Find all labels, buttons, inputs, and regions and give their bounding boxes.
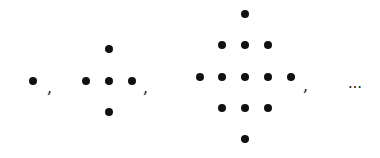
dot xyxy=(241,73,249,81)
dot xyxy=(105,45,113,53)
dot xyxy=(241,135,249,143)
dot xyxy=(218,104,226,112)
comma-separator: , xyxy=(47,80,52,96)
dot xyxy=(105,108,113,116)
comma-separator: , xyxy=(303,78,308,94)
dot xyxy=(128,77,136,85)
comma-separator: , xyxy=(143,80,148,96)
dot xyxy=(287,73,295,81)
dot-pattern-sequence: ,,,… xyxy=(0,0,380,158)
dot xyxy=(196,73,204,81)
ellipsis: … xyxy=(348,76,364,90)
dot xyxy=(218,41,226,49)
dot xyxy=(241,41,249,49)
dot xyxy=(82,77,90,85)
dot xyxy=(241,10,249,18)
dot xyxy=(105,77,113,85)
dot xyxy=(264,41,272,49)
dot xyxy=(264,73,272,81)
dot xyxy=(29,77,37,85)
dot xyxy=(264,104,272,112)
dot xyxy=(241,104,249,112)
dot xyxy=(218,73,226,81)
